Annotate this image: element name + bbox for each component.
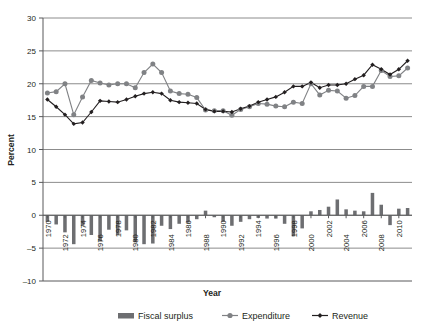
x-tick-label: 1982 (149, 220, 158, 237)
bar (195, 215, 199, 219)
revenue-point (133, 94, 137, 98)
expenditure-line (47, 64, 407, 115)
bar (177, 215, 181, 224)
revenue-point (186, 101, 190, 105)
x-tick-label: 1984 (167, 234, 176, 251)
revenue-line (47, 61, 407, 124)
x-tick-label: 1992 (237, 234, 246, 251)
y-tick-label: –10 (23, 277, 37, 286)
revenue-point (265, 97, 269, 101)
x-tick-label: 1974 (79, 220, 88, 237)
revenue-point (353, 77, 357, 81)
line-series-group (47, 61, 407, 124)
bar (362, 211, 366, 215)
x-tick-label: 1976 (96, 234, 105, 251)
bar (300, 215, 304, 228)
legend: Fiscal surplusExpenditureRevenue (118, 311, 368, 321)
expenditure-point (300, 101, 305, 106)
x-tick-label: 2000 (307, 234, 316, 251)
expenditure-point (273, 104, 278, 109)
expenditure-point (45, 90, 50, 95)
legend-marker-circle (227, 313, 232, 318)
y-tick-label: 20 (27, 80, 36, 89)
fiscal-chart: 302520151050–5–10 1970197219741976197819… (0, 0, 421, 336)
x-tick-label: 1978 (114, 220, 123, 237)
legend-label: Fiscal surplus (138, 311, 194, 321)
x-tick-label: 1990 (219, 220, 228, 237)
expenditure-point (265, 102, 270, 107)
bar (283, 215, 287, 224)
bar (204, 211, 208, 216)
bar (230, 215, 234, 226)
expenditure-point (54, 89, 59, 94)
expenditure-point (185, 92, 190, 97)
x-tick-label: 1988 (202, 234, 211, 251)
revenue-point (151, 90, 155, 94)
y-tick-label: 25 (27, 47, 36, 56)
bar (54, 215, 58, 224)
legend-swatch-bar (118, 313, 134, 319)
y-tick-label: 10 (27, 146, 36, 155)
bar (371, 193, 375, 215)
expenditure-point (89, 78, 94, 83)
expenditure-point (133, 85, 138, 90)
bar (90, 215, 94, 235)
x-tick-label: 2004 (342, 234, 351, 251)
x-tick-label: 1998 (290, 220, 299, 237)
bar (379, 205, 383, 216)
expenditure-point (177, 91, 182, 96)
legend-label: Expenditure (242, 311, 290, 321)
y-tick-label: 30 (27, 14, 36, 23)
expenditure-point (124, 81, 129, 86)
bar (406, 208, 410, 215)
revenue-point (142, 91, 146, 95)
bar (125, 215, 129, 230)
revenue-point (344, 82, 348, 86)
bar (353, 211, 357, 216)
bar (318, 210, 322, 215)
expenditure-point (396, 73, 401, 78)
y-axis-title: Percent (6, 134, 16, 166)
expenditure-point (370, 84, 375, 89)
revenue-point (124, 97, 128, 101)
revenue-point (177, 100, 181, 104)
x-tick-label: 1986 (184, 220, 193, 237)
x-tick-group: 1970197219741976197819801982198419861988… (44, 215, 404, 251)
expenditure-point (168, 88, 173, 93)
expenditure-point (361, 84, 366, 89)
bar (327, 207, 331, 216)
expenditure-point (352, 93, 357, 98)
expenditure-point (150, 62, 155, 67)
x-tick-label: 1970 (44, 220, 53, 237)
bar (309, 211, 313, 215)
x-tick-label: 2010 (395, 220, 404, 237)
expenditure-point (98, 81, 103, 86)
expenditure-point (282, 104, 287, 109)
expenditure-point (71, 112, 76, 117)
expenditure-point (115, 81, 120, 86)
expenditure-point (291, 100, 296, 105)
legend-label: Revenue (332, 311, 368, 321)
expenditure-point (62, 81, 67, 86)
y-tick-label: 15 (27, 113, 36, 122)
x-tick-label: 1980 (131, 234, 140, 251)
revenue-point (107, 99, 111, 103)
legend-marker-diamond (318, 313, 323, 318)
bar (344, 209, 348, 215)
y-tick-label: 0 (32, 211, 37, 220)
bar (336, 199, 340, 215)
bar (142, 215, 146, 244)
expenditure-point (335, 88, 340, 93)
bar (397, 209, 401, 216)
x-tick-label: 2008 (377, 234, 386, 251)
x-tick-label: 1972 (61, 234, 70, 251)
x-tick-label: 1996 (272, 234, 281, 251)
expenditure-point (106, 83, 111, 88)
bar (72, 215, 76, 244)
bar (248, 215, 252, 219)
bar (388, 215, 392, 225)
x-tick-label: 2002 (325, 220, 334, 237)
expenditure-point (159, 70, 164, 75)
expenditure-point (80, 94, 85, 99)
x-tick-label: 1994 (254, 220, 263, 237)
